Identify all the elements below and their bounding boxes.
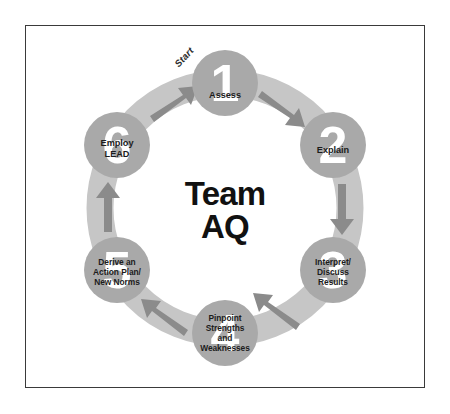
node-number-6: 6 — [103, 116, 132, 174]
cycle-node-2[interactable]: 2 — [300, 112, 366, 178]
node-number-1: 1 — [211, 54, 240, 112]
node-number-3: 3 — [319, 241, 348, 299]
node-number-2: 2 — [319, 116, 348, 174]
cycle-node-1[interactable]: 1 — [192, 50, 258, 116]
cycle-node-5[interactable]: 5 — [84, 237, 150, 303]
cycle-node-6[interactable]: 6 — [84, 112, 150, 178]
center-title: Team AQ — [185, 177, 266, 243]
cycle-node-4[interactable]: 4 — [192, 300, 258, 366]
cycle-diagram: 123456 Team AQ Start AssessExplainInterp… — [0, 0, 450, 414]
node-number-5: 5 — [103, 241, 132, 299]
cycle-node-3[interactable]: 3 — [300, 237, 366, 303]
node-number-4: 4 — [211, 304, 240, 362]
